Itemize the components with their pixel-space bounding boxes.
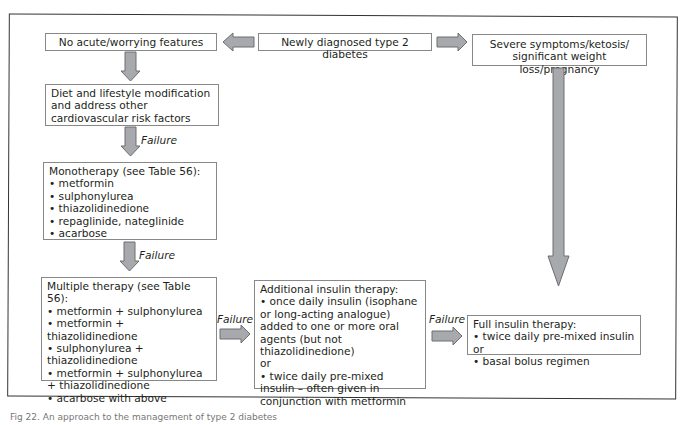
additional-insulin-box: Additional insulin therapy: • once daily…: [254, 280, 426, 389]
monotherapy-box: Monotherapy (see Table 56): • metformin …: [43, 162, 217, 240]
full-insulin-title: Full insulin therapy:: [473, 318, 635, 330]
monotherapy-item: • thiazolidinedione: [49, 202, 211, 214]
start-box: Newly diagnosed type 2 diabetes: [258, 33, 432, 51]
additional-insulin-item: • twice daily pre-mixed insulin – often …: [260, 370, 420, 407]
multiple-therapy-box: Multiple therapy (see Table 56): • metfo…: [41, 277, 217, 381]
arrow-left-icon: [223, 32, 255, 52]
multiple-therapy-item: • sulphonylurea + thiazolidinedione: [47, 342, 211, 367]
monotherapy-item: • acarbose: [49, 227, 211, 239]
multiple-therapy-item: • metformin + sulphonylurea + thiazolidi…: [47, 367, 211, 392]
no-acute-features-label: No acute/worrying features: [59, 36, 204, 48]
additional-insulin-title: Additional insulin therapy:: [260, 283, 420, 295]
failure-label: Failure: [139, 249, 175, 261]
arrow-right-icon: [436, 32, 468, 52]
failure-label: Failure: [141, 134, 177, 146]
additional-insulin-item: • once daily insulin (isophane or long-a…: [260, 295, 420, 357]
failure-label: Failure: [429, 313, 465, 325]
arrow-right-icon: [219, 324, 251, 344]
monotherapy-item: • metformin: [49, 177, 211, 189]
multiple-therapy-item: • acarbose with above: [47, 392, 211, 404]
diet-lifestyle-label: Diet and lifestyle modification and addr…: [51, 87, 210, 124]
full-insulin-box: Full insulin therapy: • twice daily pre-…: [467, 315, 641, 355]
figure-caption: Fig 22. An approach to the management of…: [10, 412, 277, 422]
multiple-therapy-title: Multiple therapy (see Table 56):: [47, 280, 211, 305]
arrow-down-long-icon: [548, 68, 570, 288]
severe-symptoms-box: Severe symptoms/ketosis/ significant wei…: [472, 34, 647, 66]
arrow-down-icon: [121, 52, 141, 82]
diet-lifestyle-box: Diet and lifestyle modification and addr…: [45, 84, 219, 126]
multiple-therapy-item: • metformin + sulphonylurea: [47, 305, 211, 317]
no-acute-features-box: No acute/worrying features: [45, 33, 217, 51]
monotherapy-item: • repaglinide, nateglinide: [49, 215, 211, 227]
full-insulin-item: • twice daily pre-mixed insulin or: [473, 330, 635, 355]
arrow-down-icon: [121, 127, 141, 157]
monotherapy-item: • sulphonylurea: [49, 190, 211, 202]
monotherapy-title: Monotherapy (see Table 56):: [49, 165, 211, 177]
multiple-therapy-item: • metformin + thiazolidinedione: [47, 317, 211, 342]
arrow-right-icon: [431, 326, 463, 346]
arrow-down-icon: [120, 242, 140, 272]
full-insulin-item: • basal bolus regimen: [473, 355, 635, 367]
additional-insulin-or: or: [260, 357, 420, 369]
